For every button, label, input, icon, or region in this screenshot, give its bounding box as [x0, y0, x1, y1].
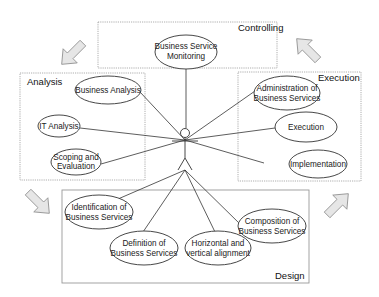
label-identification-1: Identification of: [71, 203, 127, 212]
arrow-execution-to-controlling-icon: [290, 32, 325, 67]
use-case-definition-business-services[interactable]: [110, 231, 178, 265]
controlling-title: Controlling: [238, 22, 283, 33]
actor-head: [181, 129, 190, 138]
use-case-diagram: Controlling Analysis Execution Design: [0, 0, 379, 297]
label-it-analysis: IT Analysis: [39, 122, 78, 131]
label-scoping-1: Scoping and: [53, 153, 99, 162]
use-case-horizontal-vertical-alignment[interactable]: [185, 231, 251, 265]
execution-title: Execution: [318, 72, 360, 83]
label-administration-1: Administration of: [257, 84, 319, 93]
label-administration-2: Business Services: [254, 94, 321, 103]
label-business-analysis: Business Analysis: [75, 86, 141, 95]
label-composition-2: Business Services: [239, 227, 306, 236]
arrow-design-to-execution-icon: [320, 187, 355, 222]
label-business-service-monitoring-1: Business Service: [155, 42, 218, 51]
label-definition-1: Definition of: [122, 239, 166, 248]
use-case-composition-business-services[interactable]: [238, 209, 306, 243]
label-horizontal-2: vertical alignment: [186, 249, 250, 258]
label-implementation: Implementation: [290, 160, 346, 169]
use-case-administration-business-services[interactable]: [254, 76, 320, 110]
label-scoping-2: Evaluation: [57, 162, 96, 171]
label-horizontal-1: Horizontal and: [192, 239, 245, 248]
label-execution: Execution: [288, 123, 324, 132]
use-case-identification-business-services[interactable]: [65, 195, 133, 229]
design-title: Design: [275, 270, 305, 281]
label-business-service-monitoring-2: Monitoring: [167, 52, 206, 61]
label-definition-2: Business Services: [111, 249, 178, 258]
label-identification-2: Business Services: [66, 213, 133, 222]
actor-stick-figure: [172, 129, 198, 171]
analysis-title: Analysis: [27, 76, 63, 87]
arrow-controlling-to-analysis-icon: [55, 36, 90, 71]
label-composition-1: Composition of: [245, 217, 300, 226]
arrow-analysis-to-design-icon: [21, 185, 56, 220]
